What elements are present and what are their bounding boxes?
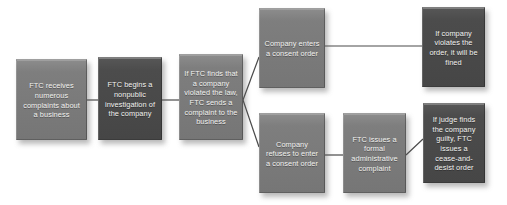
flow-node-label: Company enters a consent order <box>264 39 320 58</box>
conn-admin-complaint-to-judge <box>406 139 423 155</box>
flow-node-ftc-begins-investigation[interactable]: FTC begins a nonpublic investigation of … <box>98 57 162 140</box>
flow-node-label: If judge finds the company guilty, FTC i… <box>428 115 480 173</box>
flow-node-company-enters-consent-order[interactable]: Company enters a consent order <box>259 8 325 88</box>
flow-node-label: If FTC finds that a company violated the… <box>184 69 238 127</box>
flow-node-company-violates-order-fined[interactable]: If company violates the order, it will b… <box>422 7 485 87</box>
flowchart-diagram: FTC receives numerous complaints about a… <box>0 0 507 205</box>
flow-node-judge-finds-guilty-cease-desist[interactable]: If judge finds the company guilty, FTC i… <box>423 103 485 183</box>
flow-node-label: FTC issues a formal administrative compl… <box>348 135 401 173</box>
flow-node-company-refuses-consent-order[interactable]: Company refuses to enter a consent order <box>259 113 325 193</box>
flow-node-label: FTC receives numerous complaints about a… <box>21 81 82 119</box>
flow-node-ftc-issues-administrative-complaint[interactable]: FTC issues a formal administrative compl… <box>343 113 406 193</box>
flow-node-label: FTC begins a nonpublic investigation of … <box>103 80 157 118</box>
conn-complaint-to-refuses <box>243 100 259 147</box>
flow-node-label: Company refuses to enter a consent order <box>264 140 320 169</box>
flow-node-label: If company violates the order, it will b… <box>427 29 480 67</box>
flow-node-ftc-receives-complaints[interactable]: FTC receives numerous complaints about a… <box>16 59 87 140</box>
conn-complaint-to-consent-order <box>243 57 259 100</box>
flow-node-ftc-sends-complaint[interactable]: If FTC finds that a company violated the… <box>179 54 243 140</box>
